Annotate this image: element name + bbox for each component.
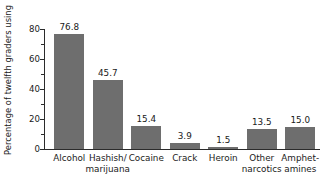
plot-area: 76.845.715.43.91.513.515.0 xyxy=(44,24,320,149)
y-tick-major xyxy=(40,29,45,30)
y-tick-label: 80 xyxy=(14,25,40,34)
y-tick-minor xyxy=(41,74,45,75)
bar xyxy=(170,143,200,149)
bar-value-label: 15.0 xyxy=(277,116,323,125)
y-tick-label: 0 xyxy=(14,145,40,154)
y-tick-label: 40 xyxy=(14,85,40,94)
bar xyxy=(54,34,84,149)
y-tick-minor xyxy=(41,104,45,105)
bar-value-label: 15.4 xyxy=(123,115,169,124)
x-category-label-line1: Crack xyxy=(172,153,197,163)
bar xyxy=(285,127,315,150)
x-category-label-line1: Amphet- xyxy=(281,153,319,163)
y-axis-tick-labels: 020406080 xyxy=(14,0,40,188)
x-category-label-line2: amines xyxy=(275,164,324,175)
y-tick-label: 60 xyxy=(14,55,40,64)
y-axis-title-text: Percentage of twelfth graders using xyxy=(3,5,13,155)
y-tick-minor xyxy=(41,44,45,45)
y-tick-label: 20 xyxy=(14,115,40,124)
x-axis-line xyxy=(44,149,320,150)
x-category-label-line1: Alcohol xyxy=(53,153,85,163)
x-category-label-line2: marijuana xyxy=(83,164,134,175)
y-tick-major xyxy=(40,149,45,150)
bar xyxy=(208,147,238,149)
y-tick-major xyxy=(40,59,45,60)
x-category-label-line1: Heroin xyxy=(209,153,238,163)
y-tick-major xyxy=(40,89,45,90)
bar xyxy=(93,80,123,149)
x-category-label: Amphet-amines xyxy=(275,153,324,174)
bar-chart: Percentage of twelfth graders using 0204… xyxy=(0,0,324,188)
bar-value-label: 76.8 xyxy=(46,23,92,32)
bar xyxy=(131,126,161,149)
bar-value-label: 1.5 xyxy=(200,136,246,145)
bar xyxy=(247,129,277,149)
y-tick-major xyxy=(40,119,45,120)
x-category-label-line1: Other xyxy=(249,153,274,163)
bar-value-label: 45.7 xyxy=(85,69,131,78)
y-tick-minor xyxy=(41,134,45,135)
